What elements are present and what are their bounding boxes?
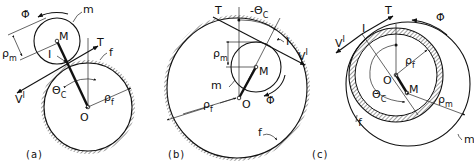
label-phi-dot: Φ̇ [21,8,30,21]
label-V-I: VI [15,91,25,106]
label-f: f [109,46,114,59]
label-M: M [409,83,419,96]
reference-dot [394,43,397,46]
label-m: m [211,79,222,92]
phi-dot-arc-arrow [38,13,68,17]
label-I: I [48,48,51,61]
reference-dot [237,18,240,21]
caption-a: (a) [26,149,43,160]
label-phi-dot: Φ̇ [266,94,275,107]
label-I: I [286,35,289,48]
label-f: f [358,116,363,129]
label-T: T [214,4,222,17]
m-leader [458,134,462,140]
label-O: O [242,98,251,111]
label-rho-m: ρm [438,93,453,109]
f-leader [100,53,107,60]
panel-c: T Φ̇ I VI ρf O M ΘC ρm f m (c) [312,4,474,160]
label-phi-dot: Φ̇ [436,11,445,24]
f-leader [356,115,357,122]
label-m: m [83,3,94,16]
label-T: T [384,4,392,17]
label-rho-m: ρm [2,47,17,63]
diagram-canvas: Φ̇ m ρm M I T f VI ΘC ρf O (a) [0,0,474,163]
panel-b: T -ΘC I VI ρm M m O Φ̇ ρf f (b) [164,4,310,161]
label-M: M [59,30,69,43]
m-leader [73,12,82,22]
label-m: m [464,133,474,146]
caption-c: (c) [312,149,328,160]
label-M: M [259,65,269,78]
caption-b: (b) [168,149,185,160]
label-I: I [362,22,365,35]
label-V-I: VI [298,48,308,63]
label-O: O [80,111,89,124]
panel-a: Φ̇ m ρm M I T f VI ΘC ρf O (a) [2,3,135,160]
point-O [237,96,241,100]
label-T: T [96,36,104,49]
label-O: O [383,74,392,87]
